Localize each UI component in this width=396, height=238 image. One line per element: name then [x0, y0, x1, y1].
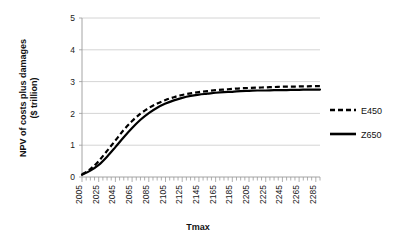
y-axis-title-line1: NPV of costs plus damages	[18, 39, 28, 157]
legend-label-e450: E450	[361, 106, 382, 116]
x-tick-label-2045: 2045	[107, 185, 117, 204]
plot-area-background	[82, 18, 320, 177]
y-tick-label-2: 2	[70, 109, 75, 119]
x-tick-label-2225: 2225	[258, 185, 268, 204]
y-tick-label-3: 3	[70, 77, 75, 87]
y-tick-label-0: 0	[70, 172, 75, 182]
legend-label-z650: Z650	[361, 130, 382, 140]
legend: E450 Z650	[330, 106, 382, 140]
x-tick-label-2165: 2165	[208, 185, 218, 204]
x-axis-tick-labels: 2005202520452065208521052125214521652185…	[74, 185, 318, 204]
x-axis-tickmarks	[82, 177, 320, 182]
y-tick-label-1: 1	[70, 140, 75, 150]
x-tick-label-2125: 2125	[174, 185, 184, 204]
y-tick-label-5: 5	[70, 13, 75, 23]
x-tick-label-2105: 2105	[158, 185, 168, 204]
y-tick-label-4: 4	[70, 45, 75, 55]
x-tick-label-2025: 2025	[91, 185, 101, 204]
x-tick-label-2185: 2185	[224, 185, 234, 204]
x-tick-label-2265: 2265	[291, 185, 301, 204]
x-axis-title: Tmax	[186, 222, 210, 232]
line-chart: 543210 200520252045206520852105212521452…	[0, 0, 396, 238]
x-tick-label-2005: 2005	[74, 185, 84, 204]
x-tick-label-2065: 2065	[124, 185, 134, 204]
x-tick-label-2085: 2085	[141, 185, 151, 204]
chart-figure: 543210 200520252045206520852105212521452…	[0, 0, 396, 238]
x-tick-label-2245: 2245	[274, 185, 284, 204]
x-tick-label-2285: 2285	[308, 185, 318, 204]
x-tick-label-2205: 2205	[241, 185, 251, 204]
y-axis-tick-labels: 543210	[70, 13, 75, 182]
y-axis-title-line2: ($ trillion)	[29, 78, 39, 119]
x-tick-label-2145: 2145	[191, 185, 201, 204]
